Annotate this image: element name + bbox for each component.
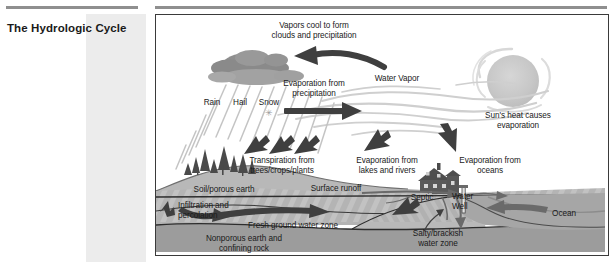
label-infiltration: Infiltration and percolation [178, 201, 262, 220]
label-evaporation-oceans: Evaporation from oceans [442, 156, 538, 175]
diagram-stage: Vapors cool to form clouds and precipita… [156, 15, 605, 252]
header-rule-left [6, 6, 138, 9]
label-surface-runoff: Surface runoff [296, 184, 376, 194]
label-evaporation-precipitation: Evaporation from precipitation [266, 79, 362, 98]
label-evaporation-lakes: Evaporation from lakes and rivers [336, 156, 438, 175]
label-fresh-ground-water: Fresh ground water zone [232, 221, 354, 231]
page-title: The Hydrologic Cycle [7, 22, 147, 34]
label-rain: Rain [198, 98, 226, 108]
page-root: The Hydrologic Cycle [0, 0, 614, 262]
label-nonporous-earth: Nonporous earth and confining rock [192, 234, 296, 253]
label-snow: Snow [253, 98, 285, 108]
label-transpiration: Transpiration from trees/crops/plants [230, 156, 334, 175]
label-septic: Septic [400, 193, 444, 203]
label-water-well: Water Well [452, 192, 488, 211]
header-rule-right [155, 6, 607, 9]
diagram-frame: Vapors cool to form clouds and precipita… [155, 14, 609, 256]
label-soil-porous-earth: Soil/porous earth [178, 185, 270, 195]
side-gray-band [86, 14, 146, 262]
label-suns-heat: Sun's heat causes evaporation [468, 111, 568, 130]
label-water-vapor: Water Vapor [362, 74, 432, 84]
label-hail: Hail [226, 98, 254, 108]
label-ocean: Ocean [542, 209, 586, 219]
snowflake-icon: ✳ [256, 108, 282, 119]
label-vapors-cool: Vapors cool to form clouds and precipita… [252, 21, 376, 40]
label-salty-brackish: Salty/brackish water zone [396, 229, 480, 248]
